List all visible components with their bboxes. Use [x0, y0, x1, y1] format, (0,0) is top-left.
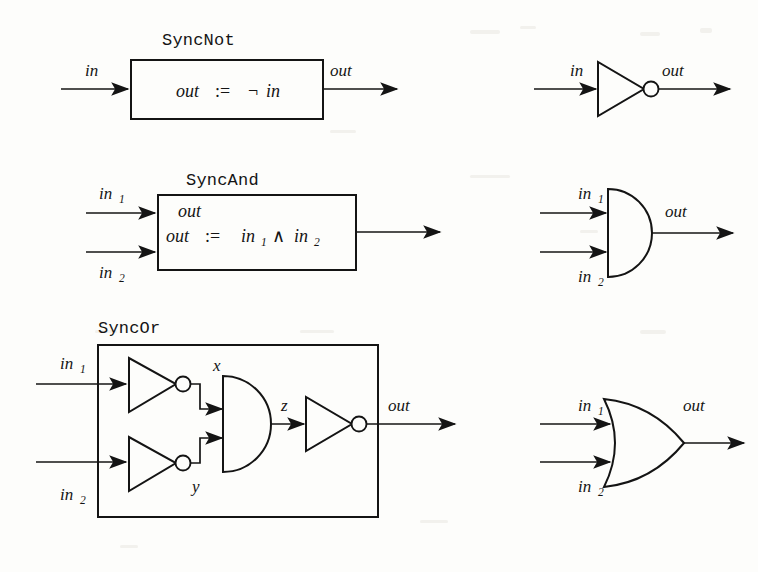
syncor-input1-sub: 1 — [80, 363, 86, 375]
syncand-input1-sub: 1 — [119, 193, 125, 205]
syncand-formula-arg2-sub: 2 — [314, 236, 320, 248]
syncor-output-label: out — [388, 396, 411, 415]
syncand-input2-sub: 2 — [119, 272, 125, 284]
syncand-formula-lhs: out — [166, 226, 190, 246]
syncor-input2-sub: 2 — [80, 494, 86, 506]
syncnot-output-label: out — [330, 61, 353, 80]
syncor-input1-label: in — [60, 354, 73, 373]
not-symbol-input-label: in — [570, 61, 583, 80]
diagram-svg: SyncNot in out out := ¬ in in out SyncAn… — [0, 0, 758, 572]
syncand-formula-assign: := — [205, 226, 220, 246]
and-symbol-output-label: out — [665, 202, 688, 221]
syncor-title: SyncOr — [98, 319, 160, 338]
syncor-bubble-x — [176, 377, 191, 392]
syncor-signal-x-label: x — [212, 356, 221, 375]
syncnot-title: SyncNot — [162, 31, 235, 50]
syncor-bubble-out — [352, 417, 367, 432]
syncor-wire-x — [191, 384, 223, 409]
not-gate-symbol — [534, 62, 730, 116]
syncnot-formula-not-op: ¬ — [248, 81, 258, 101]
or-gate-symbol — [540, 399, 744, 487]
or-symbol-input2-sub: 2 — [598, 486, 604, 498]
syncand-title: SyncAnd — [186, 171, 259, 190]
syncor-input2-label: in — [60, 485, 73, 504]
and-gate-body — [608, 189, 652, 277]
syncor-bubble-y — [176, 456, 191, 471]
or-symbol-output-label: out — [683, 396, 706, 415]
syncor-not-gate-out — [306, 397, 352, 451]
syncor-wire-y — [191, 438, 223, 463]
syncor-not-gate-y — [129, 437, 176, 491]
syncor-and-gate — [223, 376, 271, 472]
syncnot-formula-lhs: out — [176, 81, 200, 101]
syncor-not-gate-x — [129, 358, 176, 412]
not-gate-triangle — [598, 62, 644, 116]
figure-canvas: SyncNot in out out := ¬ in in out SyncAn… — [0, 0, 758, 572]
and-symbol-input2-sub: 2 — [598, 276, 604, 288]
syncand-stray-out-label: out — [178, 201, 202, 221]
syncand-block — [86, 195, 440, 270]
and-gate-symbol — [540, 189, 733, 277]
or-symbol-input2-label: in — [578, 477, 591, 496]
syncand-formula-arg1-sub: 1 — [261, 236, 267, 248]
syncnot-formula-arg: in — [266, 81, 280, 101]
syncand-formula-arg1: in — [241, 226, 255, 246]
syncor-block — [36, 345, 455, 517]
or-symbol-input1-sub: 1 — [598, 405, 604, 417]
not-symbol-output-label: out — [662, 61, 685, 80]
syncand-input2-label: in — [99, 263, 112, 282]
and-symbol-input1-sub: 1 — [598, 193, 604, 205]
and-symbol-input1-label: in — [578, 184, 591, 203]
syncand-formula-and-op: ∧ — [272, 226, 285, 246]
syncnot-formula-assign: := — [215, 81, 230, 101]
or-gate-body — [604, 399, 684, 487]
and-symbol-input2-label: in — [578, 267, 591, 286]
syncand-formula-arg2: in — [294, 226, 308, 246]
or-symbol-input1-label: in — [578, 396, 591, 415]
syncand-input1-label: in — [99, 184, 112, 203]
syncnot-input-label: in — [85, 61, 98, 80]
syncor-signal-z-label: z — [280, 396, 288, 415]
not-gate-bubble — [644, 82, 659, 97]
syncor-signal-y-label: y — [190, 477, 200, 496]
